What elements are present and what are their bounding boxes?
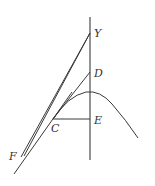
label-y: Y	[94, 27, 103, 40]
line-d-c	[53, 72, 90, 119]
tangent-line-c	[14, 92, 72, 174]
label-d: D	[93, 67, 103, 80]
label-e: E	[93, 114, 102, 127]
label-c: C	[51, 122, 60, 135]
label-f: F	[8, 150, 17, 163]
line-y-f	[21, 33, 90, 157]
geometry-diagram: Y D E C F	[0, 0, 155, 186]
